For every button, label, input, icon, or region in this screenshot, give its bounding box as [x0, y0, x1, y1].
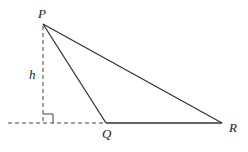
- label-R: R: [228, 120, 237, 135]
- label-P: P: [37, 6, 46, 21]
- label-Q: Q: [102, 126, 112, 141]
- triangle-diagram: P h Q R: [0, 0, 248, 152]
- label-h: h: [29, 67, 36, 82]
- right-angle-marker: [43, 114, 53, 123]
- side-PR: [43, 24, 222, 123]
- side-PQ: [43, 24, 106, 123]
